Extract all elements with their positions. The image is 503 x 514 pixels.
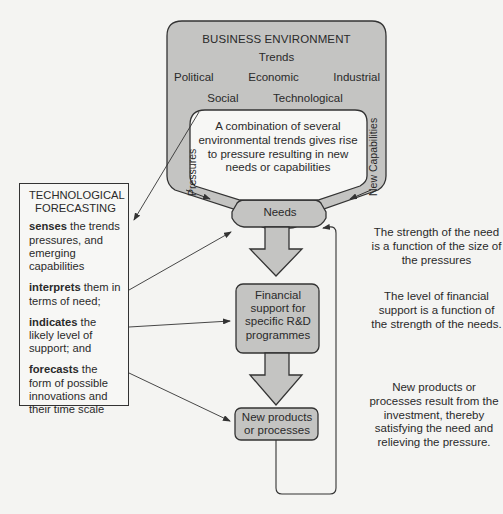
connector-interprets: [129, 232, 231, 290]
support-note: The level of financial support is a func…: [370, 290, 503, 331]
verb-indicates: indicates: [29, 316, 78, 328]
environment-subtitle: Trends: [167, 51, 386, 65]
technological-forecasting-box: TECHNOLOGICAL FORECASTING senses the tre…: [19, 183, 129, 406]
forecasting-item-interprets: interprets them in terms of need;: [29, 281, 122, 307]
trend-social: Social: [207, 92, 238, 106]
needs-label: Needs: [240, 206, 320, 220]
verb-forecasts: forecasts: [29, 363, 79, 375]
trend-technological: Technological: [273, 92, 343, 106]
verb-senses: senses: [29, 220, 67, 232]
new-capabilities-label: New Capabilities: [367, 118, 379, 196]
connector-indicates: [129, 321, 230, 327]
trend-political: Political: [174, 71, 214, 85]
forecasting-item-senses: senses the trends pressures, and emergin…: [29, 220, 122, 273]
environment-title: BUSINESS ENVIRONMENT: [167, 33, 386, 47]
new-products-label: New products or processes: [236, 411, 318, 437]
environment-explanation: A combination of several environmental t…: [198, 120, 358, 175]
forecasting-item-indicates: indicates the likely level of support; a…: [29, 316, 122, 356]
needs-note: The strength of the need is a function o…: [370, 226, 503, 267]
trend-industrial: Industrial: [333, 71, 380, 85]
products-note: New products or processes result from th…: [365, 381, 503, 450]
forecasting-item-forecasts: forecasts the form of possible innovatio…: [29, 363, 122, 416]
verb-interprets: interprets: [29, 281, 81, 293]
down-arrow-support-to-products: [250, 353, 302, 405]
pressures-label: Pressures: [186, 149, 198, 196]
trend-economic: Economic: [248, 71, 299, 85]
trends-row-1: Political Economic Industrial: [170, 71, 384, 85]
forecasting-title: TECHNOLOGICAL FORECASTING: [29, 189, 122, 215]
down-arrow-needs-to-support: [250, 227, 302, 276]
trends-row-2: Social Technological: [190, 92, 360, 106]
financial-support-label: Financial support for specific R&D progr…: [236, 289, 320, 342]
connector-forecasts: [129, 373, 230, 421]
